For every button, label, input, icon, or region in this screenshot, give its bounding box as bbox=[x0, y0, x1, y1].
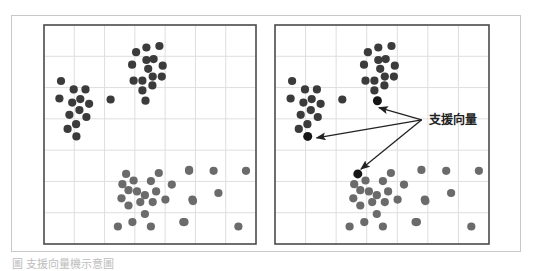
panel-support-vectors: 支援向量 bbox=[275, 25, 489, 244]
data-point bbox=[349, 194, 357, 202]
data-point bbox=[72, 132, 80, 140]
data-point bbox=[360, 218, 368, 226]
data-point bbox=[380, 81, 388, 89]
data-point bbox=[147, 177, 155, 185]
data-point bbox=[368, 198, 376, 206]
data-point bbox=[147, 222, 155, 230]
data-point bbox=[413, 218, 421, 226]
data-point bbox=[70, 85, 78, 93]
data-point bbox=[364, 48, 372, 56]
data-point bbox=[132, 48, 140, 56]
data-point bbox=[303, 120, 311, 128]
data-point bbox=[376, 65, 384, 73]
data-point bbox=[370, 86, 378, 94]
data-point bbox=[64, 125, 72, 133]
data-point bbox=[475, 167, 483, 175]
data-point bbox=[149, 73, 157, 81]
data-point bbox=[122, 170, 130, 178]
data-point bbox=[373, 191, 381, 199]
data-point bbox=[130, 176, 138, 184]
data-point bbox=[384, 187, 392, 195]
data-point bbox=[168, 181, 176, 189]
data-point bbox=[242, 167, 250, 175]
data-point bbox=[144, 65, 152, 73]
data-point bbox=[417, 166, 425, 174]
data-point bbox=[152, 187, 160, 195]
support-vector-point bbox=[353, 169, 362, 178]
data-point bbox=[128, 218, 136, 226]
data-point bbox=[141, 191, 149, 199]
data-point bbox=[124, 186, 132, 194]
data-point bbox=[382, 55, 390, 63]
figure-caption: 圖 支援向量機示意圖 bbox=[12, 259, 115, 271]
data-point bbox=[136, 198, 144, 206]
data-point bbox=[149, 198, 157, 206]
data-point bbox=[381, 198, 389, 206]
data-point bbox=[114, 222, 122, 230]
data-point bbox=[365, 187, 373, 195]
data-point bbox=[288, 77, 296, 85]
data-point bbox=[387, 169, 395, 177]
data-point bbox=[124, 201, 132, 209]
data-point bbox=[299, 99, 307, 107]
data-point bbox=[370, 77, 378, 85]
data-point bbox=[142, 43, 150, 51]
support-vector-point bbox=[303, 132, 312, 141]
data-point bbox=[81, 85, 89, 93]
data-point bbox=[374, 43, 382, 51]
data-point bbox=[138, 77, 146, 85]
data-point bbox=[185, 167, 193, 175]
data-point bbox=[68, 99, 76, 107]
support-vector-label: 支援向量 bbox=[428, 112, 477, 127]
data-point bbox=[138, 86, 146, 94]
data-point bbox=[374, 56, 382, 64]
data-point bbox=[189, 197, 197, 205]
data-point bbox=[391, 62, 399, 70]
data-point bbox=[390, 73, 398, 81]
data-point bbox=[155, 42, 163, 50]
data-point bbox=[442, 167, 450, 175]
data-point bbox=[400, 181, 408, 189]
data-point bbox=[381, 73, 389, 81]
data-point bbox=[55, 94, 63, 102]
data-point bbox=[234, 222, 242, 230]
data-point bbox=[76, 95, 84, 103]
data-point bbox=[210, 167, 218, 175]
data-point bbox=[394, 196, 402, 204]
data-point bbox=[317, 100, 325, 108]
data-point bbox=[72, 120, 80, 128]
data-point bbox=[141, 97, 149, 105]
data-point bbox=[297, 111, 305, 119]
data-point bbox=[118, 180, 126, 188]
data-point bbox=[301, 85, 309, 93]
data-point bbox=[148, 81, 156, 89]
data-point bbox=[128, 61, 136, 69]
data-point bbox=[379, 177, 387, 185]
data-point bbox=[307, 106, 315, 114]
data-point bbox=[214, 189, 222, 197]
data-point bbox=[379, 222, 387, 230]
data-point bbox=[447, 189, 455, 197]
data-point bbox=[117, 194, 125, 202]
data-point bbox=[142, 56, 150, 64]
data-point bbox=[308, 95, 316, 103]
data-point bbox=[159, 62, 167, 70]
data-point bbox=[82, 113, 90, 121]
data-point bbox=[361, 176, 369, 184]
data-point bbox=[133, 187, 141, 195]
data-point bbox=[356, 201, 364, 209]
data-point bbox=[161, 196, 169, 204]
data-point bbox=[141, 210, 149, 218]
data-point bbox=[387, 42, 395, 50]
data-point bbox=[356, 186, 364, 194]
data-point bbox=[65, 111, 73, 119]
data-point bbox=[295, 125, 303, 133]
data-point bbox=[180, 218, 188, 226]
data-point bbox=[350, 180, 358, 188]
data-point bbox=[85, 100, 93, 108]
data-point bbox=[57, 77, 65, 85]
data-point bbox=[314, 113, 322, 121]
data-point bbox=[467, 222, 475, 230]
data-point bbox=[346, 222, 354, 230]
